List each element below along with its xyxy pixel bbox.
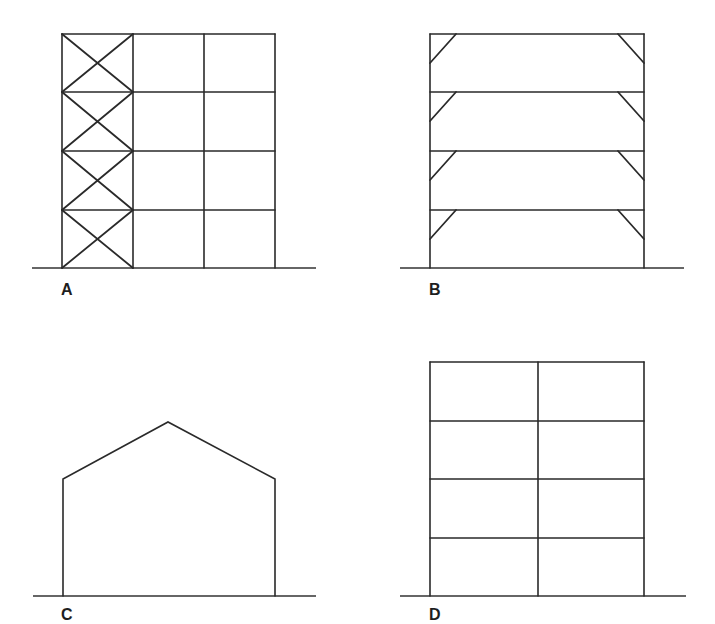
knee-braces	[430, 34, 644, 239]
panel-label-b: B	[429, 282, 441, 298]
panel-label-a: A	[61, 282, 73, 298]
panel-b-knee-braced-frame	[400, 34, 684, 268]
portal-outline	[63, 422, 275, 596]
panel-d-rigid-frame	[400, 362, 686, 596]
panel-a-braced-frame	[0, 0, 715, 624]
panel-label-d: D	[429, 607, 441, 623]
panel-label-c: C	[61, 607, 73, 623]
panel-c-portal-frame	[33, 422, 316, 596]
